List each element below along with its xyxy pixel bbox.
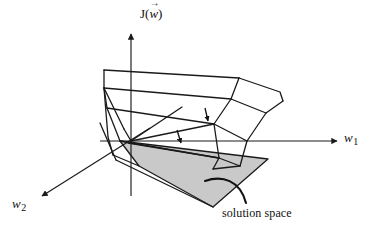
- descent-arrow-upper: [205, 108, 208, 121]
- figure-canvas: J(→w) w1 w2 solution space: [0, 0, 374, 232]
- vector-arrow-icon: →: [149, 0, 158, 6]
- descent-arrows: [177, 108, 208, 143]
- diagram-svg: [0, 0, 374, 232]
- surface-ruling-d: [124, 129, 131, 141]
- axis-label-j-vector: →w: [149, 6, 158, 22]
- axis-w2-line: [42, 128, 150, 196]
- surface-top-edge-left: [104, 70, 239, 78]
- axis-label-j: J(→w): [140, 6, 162, 22]
- axis-label-w2-base: w: [12, 196, 21, 211]
- axis-label-w1-base: w: [344, 130, 353, 145]
- surface-top-edge-right: [239, 78, 283, 101]
- axis-label-w1: w1: [344, 130, 358, 147]
- axis-label-j-close-paren: ): [158, 6, 162, 21]
- surface-contour-mid: [104, 88, 266, 113]
- axis-label-w1-subscript: 1: [353, 136, 359, 147]
- surface-rib-2: [214, 99, 231, 124]
- solution-space-caption: solution space: [222, 206, 292, 221]
- axis-label-w2-subscript: 2: [21, 202, 27, 213]
- surface-rib-1: [231, 78, 239, 99]
- axis-label-w2: w2: [12, 196, 26, 213]
- axis-label-j-variable: w: [149, 6, 158, 21]
- surface-left-rib-c: [107, 108, 120, 141]
